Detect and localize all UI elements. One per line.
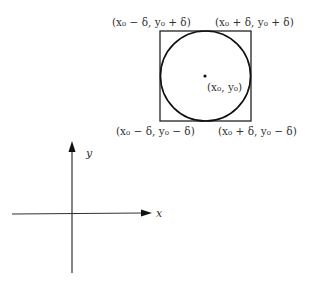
- diagram-canvas: (x₀ − δ, y₀ + δ) (x₀ + δ, y₀ + δ) (x₀ − …: [0, 0, 309, 288]
- x-axis-arrow-icon: [141, 210, 152, 217]
- label-top-left: (x₀ − δ, y₀ + δ): [112, 16, 191, 28]
- label-top-right: (x₀ + δ, y₀ + δ): [215, 16, 294, 28]
- y-axis-arrow-icon: [69, 141, 76, 152]
- center-point: [203, 74, 206, 77]
- label-center: (x₀, y₀): [207, 81, 242, 93]
- x-axis-label: x: [156, 207, 163, 220]
- y-axis-label: y: [85, 147, 93, 160]
- label-bottom-right: (x₀ + δ, y₀ − δ): [218, 125, 297, 137]
- label-bottom-left: (x₀ − δ, y₀ − δ): [116, 125, 195, 137]
- x-axis: [12, 213, 143, 214]
